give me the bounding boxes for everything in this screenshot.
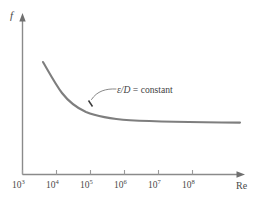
annotation-diameter: D	[123, 84, 130, 95]
tick-mantissa: 10	[46, 180, 56, 190]
x-axis-arrow-icon	[237, 171, 246, 177]
tick-mantissa: 10	[114, 180, 124, 190]
tick-exponent: 5	[90, 178, 93, 185]
x-tick-label-1e6: 106	[114, 181, 127, 191]
y-axis-arrow-icon	[19, 13, 25, 22]
tick-mantissa: 10	[148, 180, 158, 190]
friction-factor-figure: f Re 103 104 105 106 107 108 ε/D = const…	[0, 0, 265, 204]
x-tick-label-1e8: 108	[182, 181, 195, 191]
tick-exponent: 4	[56, 178, 59, 185]
tick-exponent: 6	[124, 178, 127, 185]
y-axis-label: f	[10, 10, 13, 21]
tick-mantissa: 10	[182, 180, 192, 190]
x-tick-label-1e3: 103	[12, 181, 25, 191]
x-tick-label-1e5: 105	[80, 181, 93, 191]
annotation-equals: =	[133, 84, 138, 95]
annotation-value: constant	[141, 84, 173, 95]
figure-canvas	[0, 0, 265, 204]
x-tick-label-1e4: 104	[46, 181, 59, 191]
tick-exponent: 7	[158, 178, 161, 185]
tick-exponent: 3	[22, 178, 25, 185]
annotation-attach-tick	[89, 101, 93, 107]
curve-annotation: ε/D = constant	[117, 85, 173, 95]
tick-mantissa: 10	[80, 180, 90, 190]
tick-mantissa: 10	[12, 180, 22, 190]
annotation-leader-line	[92, 89, 117, 100]
tick-exponent: 8	[192, 178, 195, 185]
x-axis-label: Re	[236, 181, 247, 191]
x-tick-label-1e7: 107	[148, 181, 161, 191]
